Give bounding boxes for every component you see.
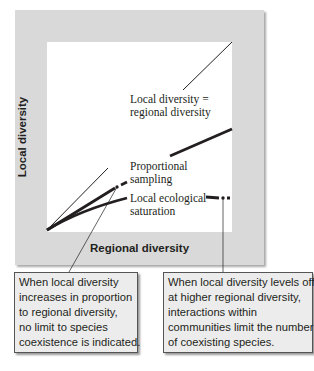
left-callout-box: When local diversity increases in propor…: [14, 272, 138, 353]
callout-line: When local diversity levels off: [168, 275, 308, 290]
callout-line: When local diversity: [19, 275, 133, 290]
callout-line: at higher regional diversity,: [168, 290, 308, 305]
y-axis-label-text: Local diversity: [16, 97, 28, 178]
label-line: sampling: [130, 173, 188, 186]
label-line: saturation: [130, 205, 206, 218]
equality-line-upper: [183, 42, 232, 90]
callout-line: coexistence is indicated.: [19, 335, 133, 350]
callout-line: no limit to species: [19, 320, 133, 335]
saturation-curve: [47, 198, 127, 230]
saturation-label: Local ecological saturation: [130, 192, 206, 217]
right-callout-box: When local diversity levels off at highe…: [163, 272, 313, 353]
equality-line-label: Local diversity = regional diversity: [130, 93, 211, 118]
callout-line: of coexisting species.: [168, 335, 308, 350]
callout-line: to regional diversity,: [19, 305, 133, 320]
saturation-curve-right: [206, 197, 230, 198]
callout-line: increases in proportion: [19, 290, 133, 305]
proportional-sampling-label: Proportional sampling: [130, 160, 188, 185]
callout-line: communities limit the number: [168, 320, 308, 335]
label-line: Proportional: [130, 160, 188, 173]
label-line: Local ecological: [130, 192, 206, 205]
label-line: regional diversity: [130, 106, 211, 119]
x-axis-label: Regional diversity: [47, 242, 232, 254]
callout-line: interactions within: [168, 305, 308, 320]
label-line: Local diversity =: [130, 93, 211, 106]
proportional-sampling-upper: [170, 129, 232, 156]
